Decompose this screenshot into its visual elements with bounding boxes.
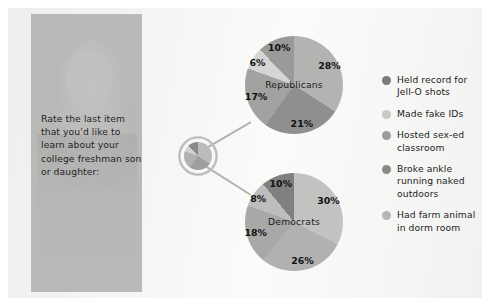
legend-item: Made fake IDs (382, 108, 482, 120)
slice-label-democrats-4: 10% (270, 178, 292, 189)
legend-item-label: Had farm animal in dorm room (397, 209, 482, 234)
legend-item-label: Hosted sex-ed classroom (397, 129, 482, 154)
slice-label-republicans-2: 17% (245, 91, 267, 102)
legend-item: Held record for Jell-O shots (382, 74, 482, 99)
legend-item-label: Broke ankle running naked outdoors (397, 163, 482, 200)
slice-label-republicans-3: 6% (249, 57, 265, 68)
legend-dot-icon (382, 110, 391, 119)
infographic-card: Rate the last item that you'd like to le… (8, 8, 482, 298)
pie-label-democrats: Democrats (268, 216, 320, 227)
slice-label-republicans-4: 10% (268, 42, 290, 53)
legend-item: Broke ankle running naked outdoors (382, 163, 482, 200)
legend: Held record for Jell-O shots Made fake I… (382, 74, 482, 243)
slice-label-democrats-3: 8% (250, 193, 266, 204)
legend-dot-icon (382, 76, 391, 85)
legend-item: Hosted sex-ed classroom (382, 129, 482, 154)
infographic-root: Rate the last item that you'd like to le… (0, 0, 490, 306)
pie-label-republicans: Republicans (265, 79, 323, 90)
legend-dot-icon (382, 211, 391, 220)
hub-pie-graphic (184, 142, 212, 170)
legend-dot-icon (382, 165, 391, 174)
legend-item-label: Held record for Jell-O shots (397, 74, 482, 99)
question-text: Rate the last item that you'd like to le… (41, 112, 145, 178)
slice-label-democrats-1: 26% (291, 255, 313, 266)
slice-label-democrats-2: 18% (244, 227, 266, 238)
slice-label-republicans-1: 21% (291, 118, 313, 129)
slice-label-democrats-0: 30% (317, 195, 339, 206)
hub-mini-pie (177, 135, 219, 177)
slice-label-republicans-0: 28% (318, 60, 340, 71)
legend-item-label: Made fake IDs (397, 108, 463, 120)
photo-head (65, 50, 113, 108)
legend-dot-icon (382, 131, 391, 140)
legend-item: Had farm animal in dorm room (382, 209, 482, 234)
